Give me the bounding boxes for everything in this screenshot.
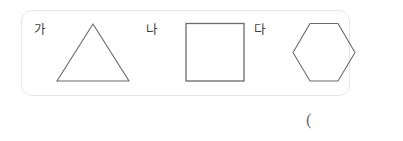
shape-label-na: 나 — [146, 24, 158, 37]
shape-item-ga: 가 — [22, 11, 140, 97]
triangle-shape-icon — [55, 21, 131, 84]
shape-item-da: 다 — [250, 11, 351, 97]
shape-label-da: 다 — [254, 24, 266, 37]
shape-panel: 가 나 다 — [21, 10, 350, 96]
shape-label-ga: 가 — [34, 24, 46, 37]
hexagon-shape-icon — [290, 21, 358, 84]
answer-open-paren: ( — [306, 111, 312, 128]
square-shape-icon — [184, 21, 246, 84]
shape-item-na: 나 — [140, 11, 250, 97]
